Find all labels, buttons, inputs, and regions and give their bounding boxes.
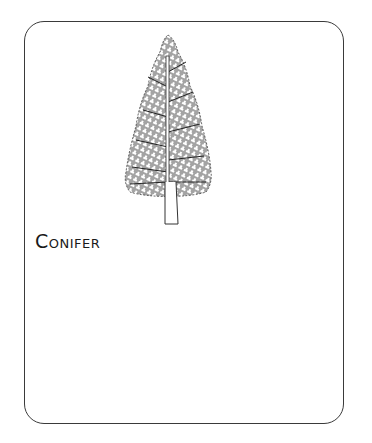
conifer-tree-icon bbox=[118, 32, 218, 228]
card-title: Conifer bbox=[35, 232, 100, 251]
